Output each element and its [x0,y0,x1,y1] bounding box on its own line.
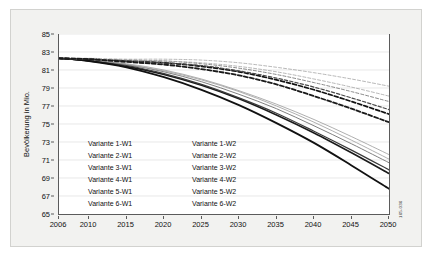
y-tick-label: 73 [42,138,50,147]
legend-item-label: Variante 1-W1 [88,138,132,149]
x-tick-label: 2010 [80,220,97,229]
y-tick-mark [51,124,54,125]
legend-item-label: Variante 5-W2 [192,186,236,197]
x-tick-label: 2025 [192,220,209,229]
x-tick-label: 2050 [380,220,397,229]
y-tick-label: 81 [42,66,50,75]
chart-plot-wrapper: 6567697173757779818385 Bevölkerung in Mi… [0,0,433,259]
legend-item[interactable]: Variante 4-W1 [68,174,164,185]
y-tick-label: 65 [42,210,50,219]
y-tick-mark [51,88,54,89]
x-tick-label: 2020 [155,220,172,229]
x-tick-mark [163,216,164,219]
legend-item[interactable]: Variante 1-W1 [68,138,164,149]
x-tick-mark [201,216,202,219]
y-tick-label: 67 [42,192,50,201]
y-tick-label: 79 [42,84,50,93]
x-tick-mark [276,216,277,219]
y-tick-mark [51,160,54,161]
legend-grid: Variante 1-W1Variante 1-W2Variante 2-W1V… [68,138,268,209]
y-tick-label: 77 [42,102,50,111]
y-tick-mark [51,214,54,215]
chart-figure: 6567697173757779818385 Bevölkerung in Mi… [0,0,433,259]
y-tick-label: 85 [42,30,50,39]
legend-item-label: Variante 6-W1 [88,198,132,209]
y-tick-mark [51,106,54,107]
y-tick-mark [51,142,54,143]
x-tick-label: 2030 [230,220,247,229]
y-tick-label: 83 [42,48,50,57]
y-tick-mark [51,178,54,179]
x-axis-ticks: 2006201020152020202520302035204020452050 [58,216,388,232]
legend-item[interactable]: Variante 2-W2 [172,150,268,161]
y-tick-mark [51,196,54,197]
y-tick-label: 75 [42,120,50,129]
y-axis-ticks: 6567697173757779818385 [32,34,54,214]
x-tick-mark [388,216,389,219]
legend-item-label: Variante 6-W2 [192,198,236,209]
x-tick-label: 2045 [342,220,359,229]
x-tick-mark [58,216,59,219]
legend-item-label: Variante 5-W1 [88,186,132,197]
source-code-label: 165-036 [398,200,403,218]
legend-item-label: Variante 1-W2 [192,138,236,149]
legend-item-label: Variante 3-W1 [88,162,132,173]
x-tick-mark [126,216,127,219]
x-tick-label: 2006 [50,220,67,229]
y-tick-label: 69 [42,174,50,183]
legend-item[interactable]: Variante 2-W1 [68,150,164,161]
legend-item[interactable]: Variante 6-W2 [172,198,268,209]
chart-legend: Variante 1-W1Variante 1-W2Variante 2-W1V… [68,138,268,209]
legend-item-label: Variante 4-W2 [192,174,236,185]
y-tick-label: 71 [42,156,50,165]
legend-item-label: Variante 4-W1 [88,174,132,185]
legend-item[interactable]: Variante 5-W2 [172,186,268,197]
legend-item[interactable]: Variante 5-W1 [68,186,164,197]
x-tick-label: 2015 [117,220,134,229]
x-tick-mark [313,216,314,219]
x-tick-mark [351,216,352,219]
y-tick-mark [51,70,54,71]
legend-item[interactable]: Variante 1-W2 [172,138,268,149]
legend-item-label: Variante 2-W1 [88,150,132,161]
legend-item-label: Variante 2-W2 [192,150,236,161]
legend-item[interactable]: Variante 6-W1 [68,198,164,209]
legend-item[interactable]: Variante 3-W2 [172,162,268,173]
x-tick-label: 2035 [267,220,284,229]
y-axis-title: Bevölkerung in Mio. [21,34,33,214]
x-tick-mark [88,216,89,219]
y-tick-mark [51,34,54,35]
x-tick-mark [238,216,239,219]
y-tick-mark [51,52,54,53]
legend-item-label: Variante 3-W2 [192,162,236,173]
legend-item[interactable]: Variante 3-W1 [68,162,164,173]
legend-item[interactable]: Variante 4-W2 [172,174,268,185]
x-tick-label: 2040 [305,220,322,229]
